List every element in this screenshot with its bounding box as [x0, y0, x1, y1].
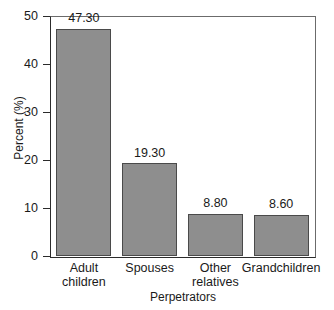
- y-tick-label: 30: [0, 106, 38, 119]
- bar-slot: 47.30: [56, 16, 111, 256]
- bar-value-label: 8.60: [269, 198, 293, 211]
- x-category-label-line: Grandchildren: [240, 261, 322, 275]
- x-category-label-line: children: [43, 275, 125, 289]
- y-tick-mark: [43, 256, 50, 257]
- y-tick-mark: [43, 64, 50, 65]
- y-tick-label: 20: [0, 154, 38, 167]
- bar-chart: Percent (%) 01020304050 47.3019.308.808.…: [0, 0, 334, 310]
- y-tick-label: 0: [0, 250, 38, 263]
- bar-value-label: 8.80: [203, 197, 227, 210]
- y-tick-mark: [43, 160, 50, 161]
- y-tick-label: 50: [0, 10, 38, 23]
- bar[interactable]: [254, 215, 309, 256]
- bar-value-label: 47.30: [68, 12, 99, 25]
- bar[interactable]: [188, 214, 243, 256]
- bar-slot: 8.60: [254, 16, 309, 256]
- bar-value-label: 19.30: [134, 147, 165, 160]
- bar-slot: 8.80: [188, 16, 243, 256]
- y-tick-label: 40: [0, 58, 38, 71]
- bar[interactable]: [56, 29, 111, 256]
- bar-slot: 19.30: [122, 16, 177, 256]
- x-category-label: Grandchildren: [240, 261, 322, 275]
- bars-layer: 47.3019.308.808.60: [51, 16, 314, 256]
- y-tick-label: 10: [0, 202, 38, 215]
- y-tick-mark: [43, 16, 50, 17]
- bar[interactable]: [122, 163, 177, 256]
- y-tick-mark: [43, 208, 50, 209]
- x-axis-title: Perpetrators: [50, 291, 316, 303]
- y-tick-mark: [43, 112, 50, 113]
- x-category-label-line: relatives: [175, 275, 257, 289]
